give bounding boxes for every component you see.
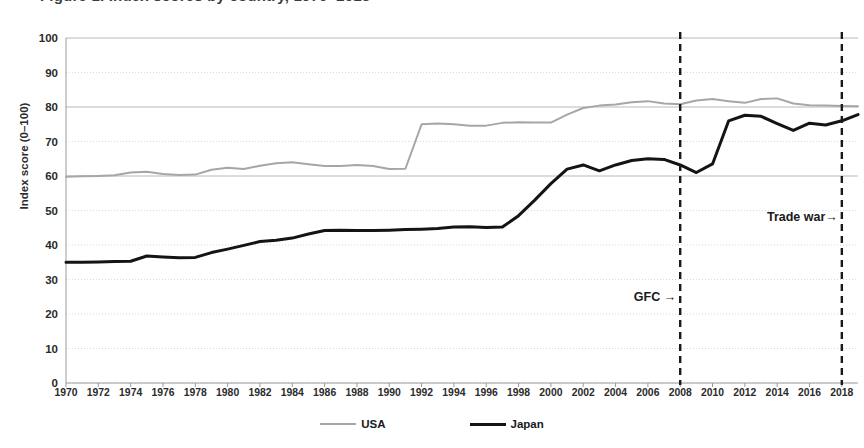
y-tick-label-50: 50 — [14, 205, 58, 217]
legend-item-japan[interactable]: Japan — [470, 418, 544, 430]
y-tick-label-40: 40 — [14, 239, 58, 251]
x-tick-label-2006: 2006 — [636, 387, 659, 398]
x-tick-label-1974: 1974 — [119, 387, 142, 398]
x-tick-label-2000: 2000 — [539, 387, 562, 398]
x-tick-label-1970: 1970 — [54, 387, 77, 398]
legend-swatch-japan-icon — [470, 423, 506, 426]
y-tick-label-20: 20 — [14, 308, 58, 320]
y-tick-label-100: 100 — [14, 32, 58, 44]
y-tick-label-30: 30 — [14, 274, 58, 286]
x-tick-label-1976: 1976 — [151, 387, 174, 398]
y-tick-label-10: 10 — [14, 343, 58, 355]
legend-swatch-usa-icon — [320, 423, 356, 425]
line-chart: Figure 1. Index scores by country, 1970–… — [0, 0, 864, 448]
chart-legend: USAJapan — [0, 418, 864, 430]
x-tick-label-2004: 2004 — [604, 387, 627, 398]
y-tick-label-80: 80 — [14, 101, 58, 113]
plot-svg — [66, 38, 858, 383]
legend-item-usa[interactable]: USA — [320, 418, 385, 430]
legend-label: USA — [361, 418, 385, 430]
x-tick-label-2016: 2016 — [798, 387, 821, 398]
x-tick-label-2014: 2014 — [766, 387, 789, 398]
x-tick-label-1978: 1978 — [184, 387, 207, 398]
x-tick-label-2018: 2018 — [830, 387, 853, 398]
series-line-usa — [66, 98, 858, 176]
y-tick-label-60: 60 — [14, 170, 58, 182]
x-tick-label-2008: 2008 — [669, 387, 692, 398]
y-tick-label-90: 90 — [14, 67, 58, 79]
annotation-gfc: GFC → — [634, 290, 676, 304]
x-tick-label-1996: 1996 — [475, 387, 498, 398]
plot-area: 0102030405060708090100 19701972197419761… — [66, 38, 858, 383]
x-tick-label-1990: 1990 — [378, 387, 401, 398]
annotation-trade-war: Trade war→ — [767, 210, 838, 224]
x-tick-label-1972: 1972 — [87, 387, 110, 398]
x-tick-label-1998: 1998 — [507, 387, 530, 398]
series-line-japan — [66, 115, 858, 263]
y-axis-title: Index score (0–100) — [18, 56, 30, 256]
x-tick-label-1992: 1992 — [410, 387, 433, 398]
x-tick-label-1988: 1988 — [345, 387, 368, 398]
legend-label: Japan — [511, 418, 544, 430]
x-tick-label-1984: 1984 — [281, 387, 304, 398]
x-tick-label-1994: 1994 — [442, 387, 465, 398]
x-tick-label-1980: 1980 — [216, 387, 239, 398]
x-tick-label-2012: 2012 — [733, 387, 756, 398]
y-tick-label-70: 70 — [14, 136, 58, 148]
y-tick-label-0: 0 — [14, 377, 58, 389]
x-tick-label-1982: 1982 — [248, 387, 271, 398]
x-tick-label-1986: 1986 — [313, 387, 336, 398]
x-tick-label-2010: 2010 — [701, 387, 724, 398]
chart-title: Figure 1. Index scores by country, 1970–… — [40, 0, 740, 7]
x-tick-label-2002: 2002 — [572, 387, 595, 398]
